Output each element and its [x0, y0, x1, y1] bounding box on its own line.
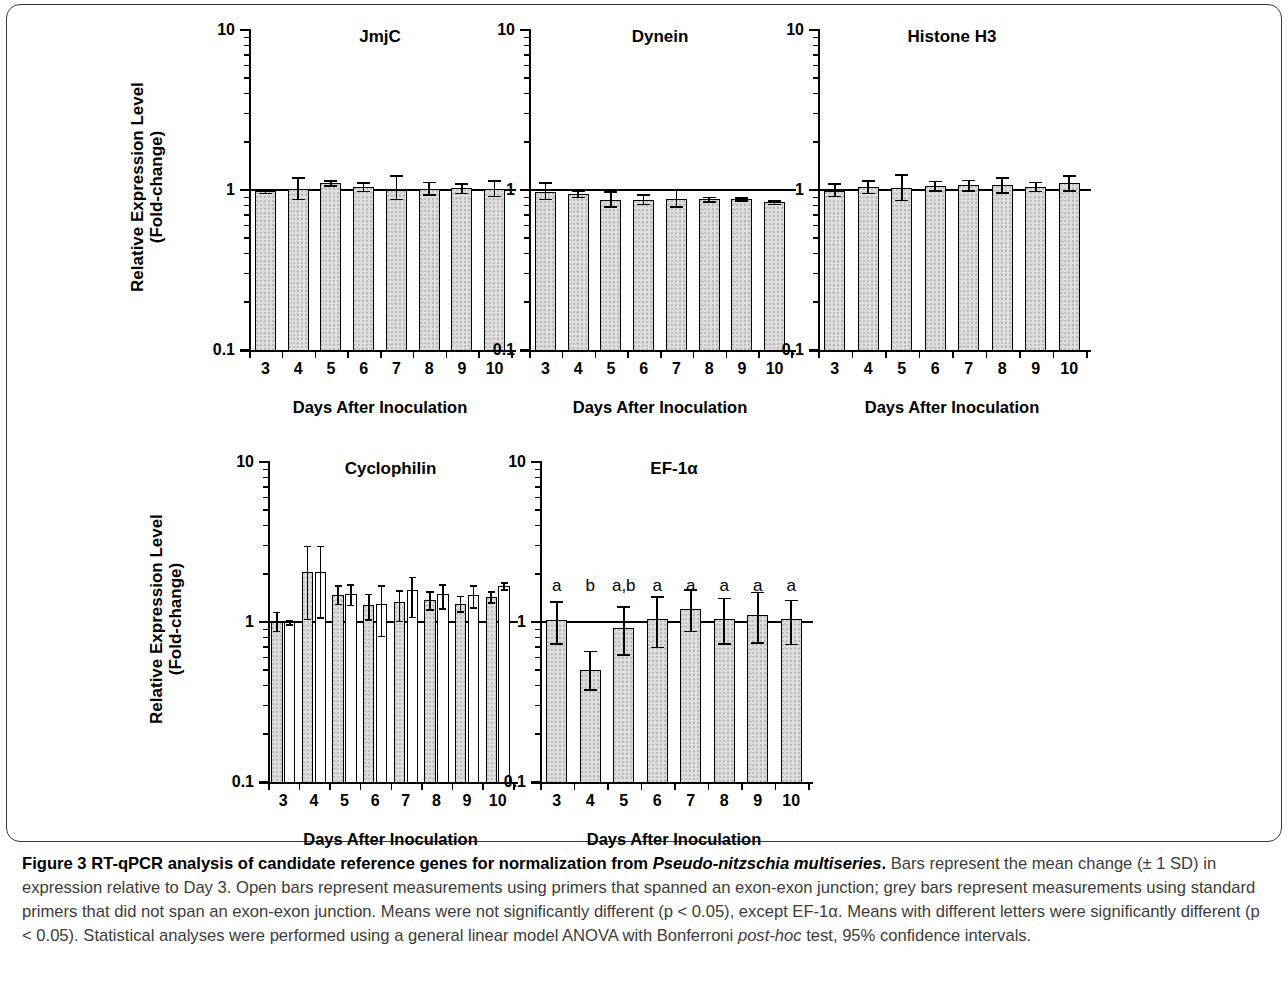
error-bar-cap-lower-day-4: [317, 617, 324, 619]
x-axis-title: Days After Inoculation: [530, 398, 790, 417]
caption-species: Pseudo-nitzschia multiseries: [653, 854, 882, 873]
y-minor-tick-6: [535, 477, 541, 479]
error-bar-stem-day-4: [867, 180, 869, 193]
y-minor-tick-1: [535, 545, 541, 547]
bar-grey-day-9: [455, 604, 466, 782]
y-minor-tick-15: [535, 629, 541, 631]
y-minor-tick-15: [813, 197, 819, 199]
y-minor-tick-9: [244, 273, 250, 275]
x-tick-7: [660, 350, 662, 358]
x-tick-3: [818, 350, 820, 358]
y-major-tick-0: [531, 461, 542, 463]
x-tick-4: [562, 350, 564, 358]
error-bar-cap-lower-day-8: [718, 643, 731, 645]
bar-grey-day-5: [332, 595, 343, 782]
error-bar-cap-upper-day-8: [718, 598, 731, 600]
bar-grey-day-6: [925, 186, 946, 350]
y-minor-tick-6: [244, 45, 250, 47]
error-bar-cap-lower-day-4: [862, 193, 875, 195]
error-bar-stem-day-8: [429, 591, 431, 609]
y-minor-tick-2: [535, 525, 541, 527]
y-minor-tick-12: [813, 225, 819, 227]
x-tick-3: [529, 350, 531, 358]
error-bar-stem-day-6: [656, 596, 658, 647]
error-bar-cap-lower-day-4: [572, 197, 585, 199]
y-minor-tick-4: [524, 65, 530, 67]
x-tick-6: [641, 782, 643, 790]
error-bar-cap-lower-day-4: [584, 689, 597, 691]
y-minor-tick-13: [524, 214, 530, 216]
y-minor-tick-1: [263, 545, 269, 547]
panel-title: Histone H3: [892, 27, 1012, 47]
y-minor-tick-8: [263, 733, 269, 735]
error-bar-stem-day-4: [320, 546, 322, 618]
error-bar-stem-day-9: [757, 592, 759, 642]
y-axis-title: Relative Expression Level(Fold-change): [147, 469, 185, 769]
y-tick-label-2: 0.1: [478, 774, 526, 790]
x-tick-6: [919, 350, 921, 358]
error-bar-stem-day-8: [428, 182, 430, 195]
error-bar-cap-upper-day-10: [1063, 175, 1076, 177]
x-tick-5: [885, 350, 887, 358]
bar-grey-day-7: [394, 602, 405, 782]
error-bar-cap-lower-day-10: [488, 602, 495, 604]
error-bar-cap-lower-day-10: [768, 204, 781, 206]
y-minor-tick-7: [244, 37, 250, 39]
bar-grey-day-4: [858, 187, 879, 350]
bar-grey-day-7: [386, 190, 407, 350]
y-minor-tick-10: [244, 253, 250, 255]
bar-grey-day-9: [731, 199, 752, 350]
error-bar-stem-day-7: [676, 189, 678, 207]
bar-grey-day-3: [535, 192, 556, 350]
error-bar-cap-upper-day-5: [617, 606, 630, 608]
y-tick-label-1: 1: [756, 182, 804, 198]
y-minor-tick-5: [244, 54, 250, 56]
x-tick-9: [726, 350, 728, 358]
x-tick-8: [421, 782, 423, 790]
bar-grey-day-8: [419, 189, 440, 350]
y-minor-tick-3: [244, 77, 250, 79]
error-bar-cap-lower-day-9: [457, 611, 464, 613]
baseline-fold-change-1: [540, 621, 813, 622]
error-bar-cap-upper-day-3: [828, 183, 841, 185]
error-bar-stem-day-5: [350, 584, 352, 605]
y-minor-tick-11: [244, 237, 250, 239]
bar-grey-day-8: [424, 600, 435, 782]
bar-grey-day-10: [1059, 183, 1080, 350]
panel-title: Dynein: [600, 27, 720, 47]
y-minor-tick-3: [263, 509, 269, 511]
y-minor-tick-4: [813, 65, 819, 67]
y-axis-title-line1: Relative Expression Level: [128, 37, 147, 337]
y-minor-tick-0: [535, 573, 541, 575]
y-minor-tick-14: [813, 205, 819, 207]
error-bar-stem-day-3: [834, 183, 836, 195]
error-bar-cap-lower-day-4: [304, 619, 311, 621]
bar-grey-day-6: [633, 200, 654, 350]
error-bar-cap-upper-day-5: [335, 585, 342, 587]
error-bar-cap-lower-day-9: [735, 200, 748, 202]
x-axis-title: Days After Inoculation: [822, 398, 1082, 417]
error-bar-cap-upper-day-4: [862, 180, 875, 182]
error-bar-cap-upper-day-6: [637, 194, 650, 196]
error-bar-stem-day-10: [490, 591, 492, 602]
error-bar-cap-upper-day-9: [457, 596, 464, 598]
error-bar-cap-lower-day-7: [396, 621, 403, 623]
bar-grey-day-4: [568, 194, 589, 350]
error-bar-cap-lower-day-3: [273, 631, 280, 633]
error-bar-stem-day-4: [307, 546, 309, 619]
y-tick-label-0: 10: [756, 22, 804, 38]
error-bar-cap-upper-day-10: [501, 582, 508, 584]
y-minor-tick-0: [263, 573, 269, 575]
error-bar-cap-upper-day-10: [785, 600, 798, 602]
y-major-tick-0: [809, 29, 820, 31]
bar-grey-day-4: [288, 189, 309, 350]
y-minor-tick-7: [524, 37, 530, 39]
error-bar-cap-upper-day-8: [439, 584, 446, 586]
error-bar-stem-day-7: [396, 175, 398, 199]
y-minor-tick-7: [813, 37, 819, 39]
y-minor-tick-8: [535, 733, 541, 735]
y-minor-tick-14: [244, 205, 250, 207]
error-bar-cap-upper-day-4: [292, 177, 305, 179]
figure-frame: [6, 4, 1282, 842]
panel-title: Cyclophilin: [331, 459, 451, 479]
